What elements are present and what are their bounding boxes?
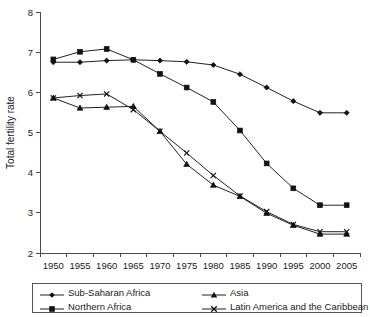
legend-entry: Sub-Saharan Africa <box>39 285 150 300</box>
data-point-marker <box>264 85 269 90</box>
series-sub-saharan-africa <box>51 57 350 115</box>
data-point-marker <box>211 173 216 178</box>
data-point-marker <box>264 161 269 166</box>
series-line <box>53 49 346 205</box>
series-line <box>53 60 346 113</box>
data-point-marker <box>344 203 349 208</box>
data-point-marker <box>157 58 162 63</box>
legend-label: Latin America and the Caribbean <box>230 301 368 312</box>
series-northern-africa <box>51 47 349 208</box>
chart-legend: Sub-Saharan AfricaNorthern AfricaAsiaLat… <box>32 283 362 313</box>
legend-entry: Latin America and the Caribbean <box>201 299 368 314</box>
square-marker-icon <box>39 303 65 315</box>
series-asia <box>50 95 349 236</box>
x-tick-label: 1965 <box>123 260 144 271</box>
series-line <box>53 94 346 232</box>
data-point-marker <box>238 128 243 133</box>
legend-swatch <box>201 301 227 313</box>
data-point-marker <box>317 110 322 115</box>
data-point-marker <box>78 49 83 54</box>
x-tick-label: 1955 <box>69 260 90 271</box>
x-tick-label: 1985 <box>229 260 250 271</box>
chart-plot-area: 2345678195019551960196519701975198019851… <box>0 0 370 317</box>
data-point-marker <box>51 57 56 62</box>
legend-swatch <box>201 287 227 299</box>
legend-label: Sub-Saharan Africa <box>68 287 150 298</box>
y-tick-label: 6 <box>28 87 33 98</box>
data-point-marker <box>184 150 189 155</box>
y-tick-label: 4 <box>28 167 33 178</box>
x-tick-label: 2000 <box>309 260 330 271</box>
y-axis-title: Total fertility rate <box>5 96 16 169</box>
legend-label: Asia <box>230 287 248 298</box>
x-tick-label: 1980 <box>203 260 224 271</box>
y-tick-label: 2 <box>28 248 33 259</box>
y-tick-label: 8 <box>28 7 33 18</box>
series-latin-america-and-the-caribbean <box>51 91 350 234</box>
y-tick-label: 5 <box>28 127 33 138</box>
data-point-marker <box>291 99 296 104</box>
fertility-rate-line-chart: 2345678195019551960196519701975198019851… <box>0 0 370 317</box>
legend-swatch <box>39 301 65 313</box>
legend-swatch <box>39 287 65 299</box>
y-tick-label: 7 <box>28 47 33 58</box>
data-point-marker <box>291 186 296 191</box>
x-marker-icon <box>201 303 227 315</box>
x-tick-label: 2005 <box>336 260 357 271</box>
x-tick-label: 1990 <box>256 260 277 271</box>
series-line <box>53 98 346 234</box>
data-point-marker <box>104 47 109 52</box>
data-point-marker <box>104 58 109 63</box>
x-tick-label: 1950 <box>43 260 64 271</box>
data-point-marker <box>158 71 163 76</box>
legend-entry: Asia <box>201 285 248 300</box>
x-tick-label: 1995 <box>283 260 304 271</box>
x-tick-label: 1960 <box>96 260 117 271</box>
legend-label: Northern Africa <box>68 301 131 312</box>
data-point-marker <box>318 203 323 208</box>
data-point-marker <box>344 110 349 115</box>
x-tick-label: 1970 <box>149 260 170 271</box>
x-tick-label: 1975 <box>176 260 197 271</box>
data-point-marker <box>237 72 242 77</box>
data-point-marker <box>184 85 189 90</box>
legend-entry: Northern Africa <box>39 299 131 314</box>
data-point-marker <box>131 57 136 62</box>
data-point-marker <box>211 100 216 105</box>
data-point-marker <box>211 62 216 67</box>
y-tick-label: 3 <box>28 207 33 218</box>
data-point-marker <box>77 60 82 65</box>
data-point-marker <box>184 59 189 64</box>
